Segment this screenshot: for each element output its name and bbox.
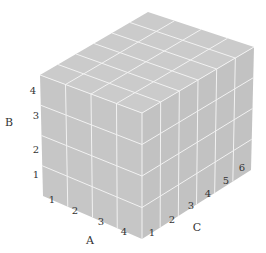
tick-b-3: 3 [33,110,39,121]
tick-c-2: 2 [169,214,175,225]
tick-a-1: 1 [49,194,55,205]
axis-label-c: C [193,221,201,234]
tick-b-1: 1 [33,169,39,180]
tick-c-3: 3 [188,200,194,211]
tick-c-5: 5 [223,175,229,186]
tick-a-4: 4 [121,226,127,237]
grid-cuboid-diagram: A1234B1234C123456 [0,0,266,253]
tick-b-4: 4 [30,85,36,96]
tick-c-4: 4 [205,188,211,199]
tick-c-1: 1 [149,227,155,238]
tick-a-2: 2 [72,205,78,216]
tick-a-3: 3 [98,216,104,227]
tick-c-6: 6 [239,162,245,173]
axis-label-a: A [85,234,95,247]
axis-label-b: B [5,116,13,129]
tick-b-2: 2 [33,144,39,155]
